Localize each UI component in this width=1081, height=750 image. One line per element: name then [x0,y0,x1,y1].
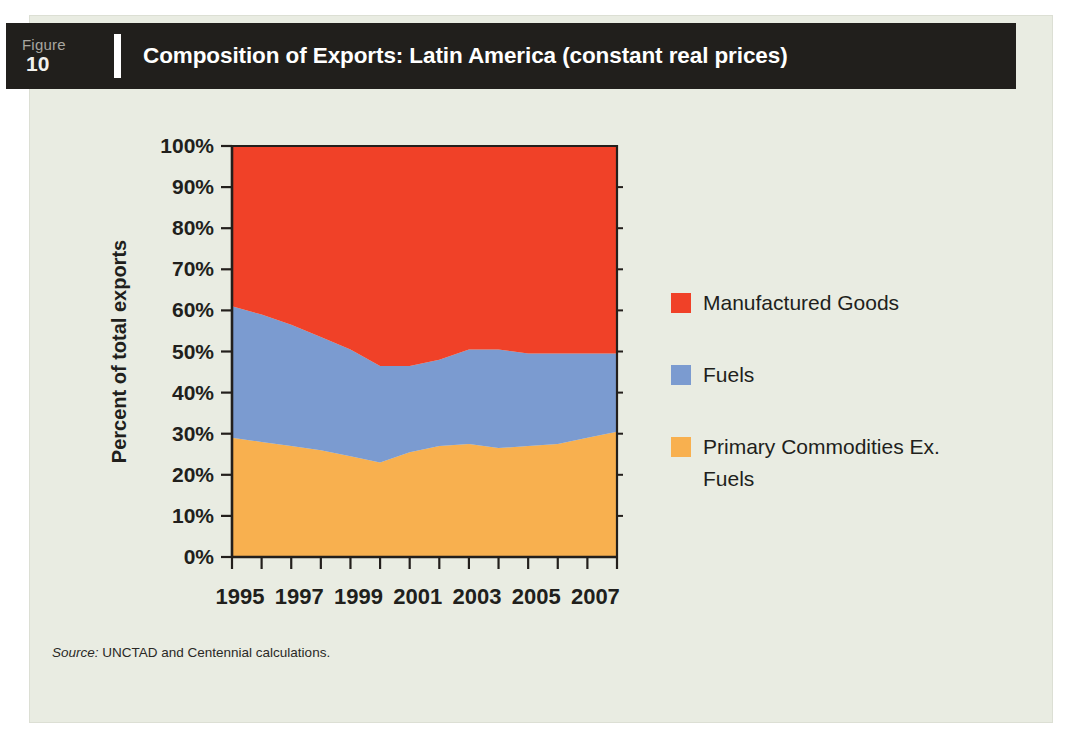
x-axis-tick-label: 2001 [393,584,442,609]
legend-swatch-0 [671,293,691,313]
y-axis-title: Percent of total exports [108,240,130,463]
title-divider-rule [114,34,121,78]
y-axis-tick-label: 80% [172,216,214,239]
chart-legend: Manufactured GoodsFuelsPrimary Commoditi… [671,291,940,490]
source-note: Source: UNCTAD and Centennial calculatio… [52,645,330,660]
x-axis-tick-label: 2003 [452,584,501,609]
y-axis-tick-label: 100% [160,134,214,157]
x-axis-tick-label: 1997 [275,584,324,609]
chart-plot-areas [232,146,617,557]
figure-tag-number: 10 [22,53,114,75]
y-axis-tick-label: 0% [184,545,215,568]
legend-swatch-2 [671,437,691,457]
chart-container: 0%10%20%30%40%50%60%70%80%90%100% 199519… [6,92,1016,622]
y-axis-tick-label: 50% [172,340,214,363]
y-axis-tick-label: 70% [172,257,214,280]
legend-label-2: Fuels [703,467,754,490]
y-axis-tick-label: 20% [172,463,214,486]
page-title: Composition of Exports: Latin America (c… [143,43,788,69]
figure-page: Figure 10 Composition of Exports: Latin … [0,0,1081,750]
y-axis-tick-label: 40% [172,381,214,404]
area-series-primary-commodities-ex-fuels [232,432,617,557]
legend-label-2: Primary Commodities Ex. [703,435,940,458]
x-axis-tick-label: 1999 [334,584,383,609]
x-axis-tick-label: 2005 [512,584,561,609]
x-axis-tick-label: 1995 [216,584,265,609]
figure-tag-word: Figure [22,37,114,53]
source-text: UNCTAD and Centennial calculations. [99,645,331,660]
figure-title-bar: Figure 10 Composition of Exports: Latin … [6,23,1016,89]
stacked-area-chart: 0%10%20%30%40%50%60%70%80%90%100% 199519… [6,92,1016,622]
y-axis-tick-label: 30% [172,422,214,445]
y-axis-tick-label: 60% [172,298,214,321]
figure-number-tag: Figure 10 [6,37,114,76]
y-axis-tick-label: 90% [172,175,214,198]
source-label: Source: [52,645,99,660]
x-axis: 1995199719992001200320052007 [216,557,620,609]
y-axis-tick-label: 10% [172,504,214,527]
legend-label-0: Manufactured Goods [703,291,899,314]
x-axis-tick-label: 2007 [571,584,620,609]
y-axis-title-label: Percent of total exports [108,240,130,463]
legend-swatch-1 [671,365,691,385]
legend-label-1: Fuels [703,363,754,386]
